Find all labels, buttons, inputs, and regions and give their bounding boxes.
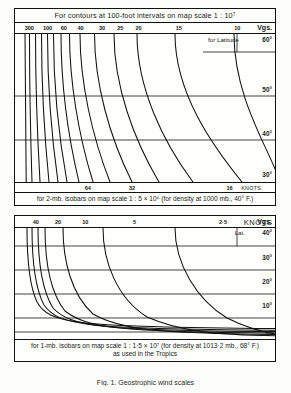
upper-top-tick-100: 100 (43, 25, 52, 31)
upper-side-note: for Latitude (208, 37, 239, 43)
lower-panel-caption: for 1-mb. isobars on map scale 1 : 1·5 ×… (15, 339, 275, 360)
lower-top-tick-10: 10 (82, 219, 88, 225)
lower-top-scale: 40 20 10 5 2·5 KNOTS Vgs. (15, 216, 275, 228)
lower-speed-curves (27, 228, 275, 336)
upper-lat-30: 30° (262, 172, 272, 178)
upper-top-scale: 300 100 60 40 30 25 20 15 10 KNOTS Vgs. (15, 23, 275, 34)
lower-caption-line-1: for 1-mb. isobars on map scale 1 : 1·5 ×… (31, 342, 259, 349)
upper-lat-40: 40° (262, 131, 272, 137)
upper-lat-50: 50° (262, 87, 272, 93)
upper-top-tick-10: 10 (234, 25, 240, 31)
lower-top-vgs: Vgs. (257, 218, 272, 225)
upper-top-vgs: Vgs. (257, 24, 272, 31)
panel-gap (14, 206, 276, 215)
figure-root: For contours at 100-foot intervals on ma… (0, 0, 291, 393)
lower-lat-40: 40° (262, 230, 272, 236)
upper-top-tick-300: 300 (25, 25, 34, 31)
upper-plot-svg (15, 34, 275, 182)
upper-top-tick-20: 20 (135, 25, 141, 31)
upper-bottom-tick-16: 16 (226, 185, 232, 191)
lower-gridlines (15, 246, 275, 332)
upper-top-tick-40: 40 (78, 25, 84, 31)
figure-caption: Fig. 1. Geostrophic wind scales (0, 379, 291, 386)
lower-lat-30: 30° (262, 255, 272, 261)
upper-top-tick-15: 15 (176, 25, 182, 31)
panel-stack: For contours at 100-foot intervals on ma… (14, 8, 276, 362)
upper-top-tick-25: 25 (117, 25, 123, 31)
lower-side-note: Lat. (235, 230, 245, 236)
upper-bottom-scale: 64 32 16 KNOTS (15, 182, 275, 192)
upper-lat-60: 60° (262, 37, 272, 43)
upper-top-tick-30: 30 (99, 25, 105, 31)
lower-plot-svg (15, 228, 275, 339)
lower-lat-10: 10° (262, 303, 272, 309)
lower-caption-line-2: as used in the Tropics (17, 350, 273, 358)
upper-panel: For contours at 100-foot intervals on ma… (14, 8, 276, 206)
upper-bottom-tick-64: 64 (85, 185, 91, 191)
lower-lat-0: 0° (266, 331, 272, 337)
upper-gridlines (15, 96, 275, 140)
lower-plot-area: Lat. 40° 30° 20° 10° 0° (15, 228, 275, 339)
upper-panel-caption: for 2-mb. isobars on map scale 1 : 5 × 1… (15, 192, 275, 205)
upper-bottom-tick-32: 32 (129, 185, 135, 191)
upper-bottom-units: KNOTS (241, 185, 261, 191)
lower-top-tick-40: 40 (33, 219, 39, 225)
upper-speed-curves (25, 34, 275, 182)
lower-lat-20: 20° (262, 279, 272, 285)
lower-top-tick-5: 5 (133, 219, 136, 225)
upper-panel-header: For contours at 100-foot intervals on ma… (15, 9, 275, 23)
lower-top-tick-20: 20 (55, 219, 61, 225)
upper-top-tick-60: 60 (61, 25, 67, 31)
lower-panel: 40 20 10 5 2·5 KNOTS Vgs. (14, 215, 276, 361)
lower-top-tick-2-5: 2·5 (219, 219, 227, 225)
upper-plot-area: for Latitude 60° 50° 40° 30° (15, 34, 275, 182)
